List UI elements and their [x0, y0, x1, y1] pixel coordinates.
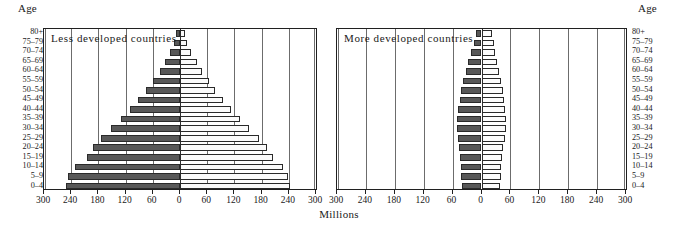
x-tick-120 [233, 190, 234, 194]
age-tick-20-24: 20–24 [632, 143, 652, 151]
bar-row [44, 96, 316, 106]
bar-male-35-39 [457, 116, 481, 123]
bar-male-15-19 [460, 154, 481, 161]
bar-row [44, 86, 316, 96]
x-tick-label--60: 60 [447, 195, 457, 205]
bar-male-50-54 [146, 87, 180, 94]
age-tick-5-9: 5–9 [31, 172, 43, 180]
bar-row [44, 67, 316, 77]
x-tick-label-240: 240 [281, 195, 295, 205]
age-tick-0-4: 0–4 [31, 182, 43, 190]
bar-male-5-9 [461, 173, 481, 180]
age-tick-60-64: 60–64 [632, 66, 652, 74]
bar-female-75-79 [180, 40, 187, 47]
age-tick-15-19: 15–19 [632, 153, 652, 161]
bar-male-25-29 [101, 135, 180, 142]
bar-row [337, 105, 626, 115]
age-tick-65-69: 65–69 [23, 57, 43, 65]
bar-row [337, 115, 626, 125]
bar-rows-less [44, 29, 316, 190]
age-tick-labels-left: 80+75–7970–7465–6960–6455–5950–5445–4940… [9, 28, 43, 190]
bar-female-40-44 [180, 106, 231, 113]
age-tick-25-29: 25–29 [23, 134, 43, 142]
bar-row [44, 162, 316, 172]
bar-female-15-19 [482, 154, 503, 161]
x-tick-label-60: 60 [505, 195, 515, 205]
bar-female-70-74 [180, 49, 191, 56]
bar-row [337, 67, 626, 77]
x-tick-180 [567, 190, 568, 194]
bar-row [337, 77, 626, 87]
bar-row [44, 115, 316, 125]
x-tick-label-180: 180 [560, 195, 574, 205]
bar-female-0-4 [180, 183, 290, 190]
panel-more-developed: More developed countries Male Female [336, 28, 627, 190]
age-tick-20-24: 20–24 [23, 143, 43, 151]
bar-female-10-14 [180, 164, 283, 171]
bar-male-30-34 [457, 125, 482, 132]
x-tick-240 [288, 190, 289, 194]
bar-row [44, 77, 316, 87]
units-label: Millions [0, 208, 678, 220]
age-tick-10-14: 10–14 [632, 162, 652, 170]
bar-female-65-69 [482, 59, 498, 66]
bar-female-15-19 [180, 154, 273, 161]
bar-female-50-54 [482, 87, 504, 94]
age-tick-65-69: 65–69 [632, 57, 652, 65]
bar-row [337, 162, 626, 172]
x-tick-0 [481, 190, 482, 194]
bar-female-10-14 [482, 164, 502, 171]
x-tick-label--60: 60 [147, 195, 157, 205]
age-tick-40-44: 40–44 [632, 105, 652, 113]
x-tick-label--300: 300 [36, 195, 50, 205]
x-tick-labels-more: 30024018012060060120180240300 [336, 195, 627, 208]
bar-row [337, 181, 626, 190]
bar-row [44, 58, 316, 68]
bar-male-55-59 [153, 78, 180, 85]
bar-row [44, 143, 316, 153]
x-tick-label-60: 60 [201, 195, 211, 205]
bar-female-20-24 [482, 144, 504, 151]
bar-male-65-69 [165, 59, 180, 66]
x-tick-label-0: 0 [177, 195, 182, 205]
bar-male-0-4 [462, 183, 482, 190]
bar-row [337, 124, 626, 134]
x-tick--300 [336, 190, 337, 194]
population-pyramid-figure: Age Age 80+75–7970–7465–6960–6455–5950–5… [0, 0, 678, 235]
x-tick-label--240: 240 [63, 195, 77, 205]
x-tick-300 [625, 190, 626, 194]
age-tick-25-29: 25–29 [632, 134, 652, 142]
bar-female-50-54 [180, 87, 215, 94]
age-tick-10-14: 10–14 [23, 162, 43, 170]
bar-male-60-64 [466, 68, 481, 75]
x-tick-label--180: 180 [387, 195, 401, 205]
bar-female-60-64 [180, 68, 202, 75]
age-tick-80+: 80+ [30, 28, 43, 36]
bar-row [337, 48, 626, 58]
bar-male-70-74 [170, 49, 180, 56]
x-tick-label-180: 180 [253, 195, 267, 205]
bar-female-65-69 [180, 59, 197, 66]
age-caption-right: Age [638, 2, 657, 14]
bar-male-45-49 [138, 97, 180, 104]
bar-male-5-9 [68, 173, 180, 180]
x-tick--120 [125, 190, 126, 194]
bar-female-25-29 [180, 135, 259, 142]
x-tick-180 [261, 190, 262, 194]
bar-male-15-19 [87, 154, 180, 161]
x-tick-240 [596, 190, 597, 194]
x-tick-labels-less: 30024018012060060120180240300 [43, 195, 317, 208]
age-tick-40-44: 40–44 [23, 105, 43, 113]
bar-row [337, 172, 626, 182]
age-tick-30-34: 30–34 [23, 124, 43, 132]
bar-row [337, 153, 626, 163]
x-tick-label--300: 300 [329, 195, 343, 205]
bar-row [44, 105, 316, 115]
age-tick-15-19: 15–19 [23, 153, 43, 161]
x-tick--60 [152, 190, 153, 194]
age-tick-50-54: 50–54 [632, 86, 652, 94]
bar-male-40-44 [130, 106, 180, 113]
bar-row [44, 172, 316, 182]
panel-title-more-developed: More developed countries [344, 32, 473, 44]
bar-female-60-64 [482, 68, 500, 75]
